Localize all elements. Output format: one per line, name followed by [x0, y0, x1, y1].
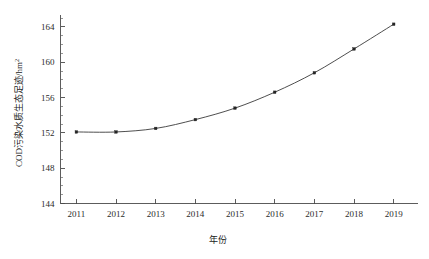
- x-tick-label: 2014: [186, 209, 205, 219]
- x-axis-tick-labels: 201120122013201420152016201720182019: [68, 209, 404, 219]
- data-point-marker: [194, 118, 197, 121]
- x-tick-label: 2017: [305, 209, 324, 219]
- x-tick-label: 2013: [147, 209, 166, 219]
- x-axis-title: 年份: [209, 234, 227, 245]
- y-tick-label: 148: [41, 163, 55, 173]
- y-tick-label: 160: [41, 57, 55, 67]
- line-chart: 144148152156160164 201120122013201420152…: [0, 0, 429, 259]
- svg-text:COD污染水质生态足迹/hm2: COD污染水质生态足迹/hm2: [13, 59, 24, 167]
- data-point-marker: [154, 127, 157, 130]
- x-tick-label: 2011: [68, 209, 86, 219]
- chart-background: [0, 0, 429, 259]
- data-point-marker: [273, 91, 276, 94]
- y-axis-title-exponent: 2: [13, 59, 20, 62]
- x-tick-label: 2015: [226, 209, 245, 219]
- data-point-marker: [392, 23, 395, 26]
- data-point-marker: [313, 71, 316, 74]
- data-point-marker: [115, 131, 118, 134]
- x-tick-label: 2018: [345, 209, 364, 219]
- chart-figure: 144148152156160164 201120122013201420152…: [0, 0, 429, 259]
- y-axis-title: COD污染水质生态足迹/hm2: [13, 59, 24, 167]
- y-tick-label: 152: [41, 128, 55, 138]
- data-point-marker: [75, 131, 78, 134]
- data-point-marker: [353, 48, 356, 51]
- x-tick-label: 2012: [107, 209, 125, 219]
- x-tick-label: 2019: [385, 209, 404, 219]
- y-tick-label: 144: [41, 199, 55, 209]
- x-tick-label: 2016: [266, 209, 285, 219]
- data-point-marker: [234, 107, 237, 110]
- y-tick-label: 164: [41, 22, 55, 32]
- y-axis-title-base: COD污染水质生态足迹/hm: [13, 62, 24, 167]
- y-tick-label: 156: [41, 93, 55, 103]
